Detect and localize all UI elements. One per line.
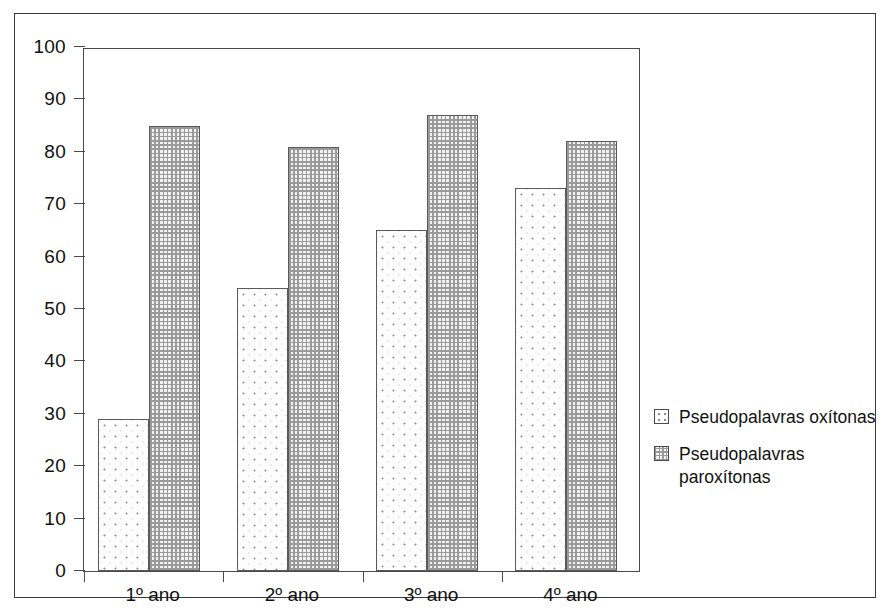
bar-oxitonas — [376, 230, 427, 571]
x-axis-group-label: 3º ano — [362, 584, 501, 606]
y-axis-tick: 90 — [74, 98, 85, 99]
legend-label: Pseudopalavras oxítonas — [679, 406, 876, 429]
y-axis-tick: 20 — [74, 465, 85, 466]
y-axis-tick-label: 20 — [44, 455, 66, 477]
legend-item: Pseudopalavrasparoxítonas — [654, 443, 886, 489]
y-axis-tick: 80 — [74, 151, 85, 152]
y-axis-tick: 100 — [74, 46, 85, 47]
y-axis-tick: 70 — [74, 203, 85, 204]
legend-swatch-icon — [654, 446, 669, 461]
y-axis-tick: 40 — [74, 360, 85, 361]
bar-oxitonas — [98, 419, 149, 571]
y-axis-tick-label: 70 — [44, 193, 66, 215]
chart-legend: Pseudopalavras oxítonasPseudopalavraspar… — [654, 406, 886, 503]
figure-root: 1009080706050403020100 Pseudopalavras ox… — [0, 0, 891, 614]
y-axis-tick-label: 0 — [55, 560, 66, 582]
y-axis-tick: 10 — [74, 518, 85, 519]
legend-label: Pseudopalavrasparoxítonas — [679, 443, 805, 489]
x-axis-separator — [223, 571, 224, 582]
x-axis-separator — [363, 571, 364, 582]
x-axis-group-label: 2º ano — [222, 584, 361, 606]
y-axis-tick-label: 40 — [44, 350, 66, 372]
x-axis-separator — [502, 571, 503, 582]
legend-swatch-icon — [654, 409, 669, 424]
y-axis-tick-label: 90 — [44, 88, 66, 110]
y-axis-tick-label: 60 — [44, 246, 66, 268]
x-axis-group-label: 1º ano — [83, 584, 222, 606]
bar-oxitonas — [515, 188, 566, 571]
plot-area: 1009080706050403020100 — [83, 48, 640, 572]
y-axis-tick-label: 80 — [44, 141, 66, 163]
y-axis-tick: 30 — [74, 413, 85, 414]
y-axis-tick: 50 — [74, 308, 85, 309]
x-axis-separator — [84, 571, 85, 582]
y-axis-tick-label: 30 — [44, 403, 66, 425]
bar-paroxitonas — [427, 115, 478, 571]
y-axis-tick-label: 10 — [44, 508, 66, 530]
figure-outer-frame: 1009080706050403020100 Pseudopalavras ox… — [14, 13, 876, 598]
bar-paroxitonas — [566, 141, 617, 571]
y-axis-tick-label: 100 — [33, 36, 66, 58]
y-axis-tick: 60 — [74, 256, 85, 257]
bar-oxitonas — [237, 288, 288, 571]
bar-paroxitonas — [149, 126, 200, 571]
legend-item: Pseudopalavras oxítonas — [654, 406, 886, 429]
bar-paroxitonas — [288, 147, 339, 571]
y-axis-tick-label: 50 — [44, 298, 66, 320]
x-axis-group-label: 4º ano — [501, 584, 640, 606]
